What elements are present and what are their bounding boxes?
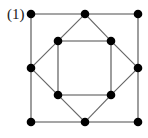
graph-vertex	[54, 91, 63, 100]
graph-edge	[58, 14, 85, 41]
graph-vertex	[134, 10, 143, 19]
graph-edge	[31, 41, 58, 68]
graph-vertex	[107, 91, 116, 100]
graph-vertex	[134, 118, 143, 127]
graph-vertex	[81, 118, 90, 127]
graph-vertex	[54, 37, 63, 46]
figure-label: (1)	[7, 6, 25, 23]
graph-vertex	[134, 64, 143, 73]
graph-vertex	[107, 37, 116, 46]
graph-vertex	[27, 64, 36, 73]
figure-container: (1)	[0, 0, 148, 138]
vertices-layer	[27, 10, 143, 127]
graph-vertex	[27, 10, 36, 19]
graph-edge	[85, 95, 111, 122]
graph-edge	[85, 14, 111, 41]
graph-vertex	[27, 118, 36, 127]
edges-layer	[31, 14, 138, 122]
graph-edge	[58, 95, 85, 122]
graph-edge	[111, 68, 138, 95]
graph-edge	[31, 68, 58, 95]
graph-edge	[111, 41, 138, 68]
graph-vertex	[81, 10, 90, 19]
